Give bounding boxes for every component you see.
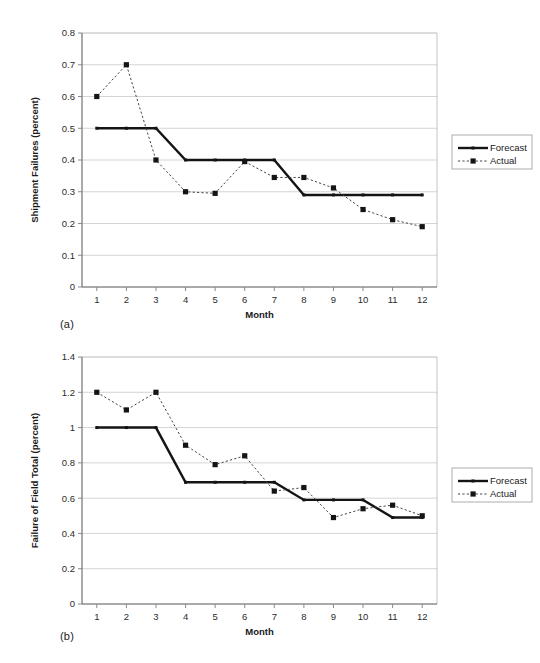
chart-legend: ForecastActual xyxy=(452,135,532,169)
x-tick-label: 7 xyxy=(272,294,277,305)
data-point-actual xyxy=(124,62,129,67)
y-tick-label: 0.6 xyxy=(62,91,75,102)
data-point-actual xyxy=(94,390,99,395)
y-tick-label: 0.7 xyxy=(62,59,75,70)
x-tick-label: 5 xyxy=(212,294,217,305)
x-tick-label: 3 xyxy=(153,294,158,305)
x-tick-label: 8 xyxy=(301,294,306,305)
legend-marker-actual xyxy=(471,491,476,496)
data-point-forecast xyxy=(362,193,365,196)
x-tick-label: 1 xyxy=(94,611,99,622)
data-point-forecast xyxy=(243,481,246,484)
panel-caption-a: (a) xyxy=(60,318,74,330)
data-point-forecast xyxy=(125,127,128,130)
data-point-actual xyxy=(153,157,158,162)
chart-b-failure-of-field-total: 00.20.40.60.811.21.4123456789101112Month… xyxy=(0,330,540,663)
x-tick-label: 4 xyxy=(183,294,188,305)
data-point-forecast xyxy=(214,481,217,484)
data-point-forecast xyxy=(391,193,394,196)
data-point-forecast xyxy=(273,159,276,162)
x-tick-label: 1 xyxy=(94,294,99,305)
x-tick-label: 4 xyxy=(183,611,188,622)
panel-caption-b: (b) xyxy=(60,630,74,642)
y-tick-label: 0.1 xyxy=(62,250,75,261)
data-point-actual xyxy=(390,217,395,222)
y-tick-label: 0.2 xyxy=(62,563,75,574)
legend-marker-forecast xyxy=(472,480,475,483)
x-tick-label: 2 xyxy=(124,611,129,622)
data-point-actual xyxy=(242,453,247,458)
data-point-actual xyxy=(360,207,365,212)
data-point-actual xyxy=(272,175,277,180)
x-tick-label: 9 xyxy=(331,294,336,305)
legend-label-forecast: Forecast xyxy=(490,475,527,486)
data-point-actual xyxy=(360,506,365,511)
data-point-forecast xyxy=(302,193,305,196)
x-tick-label: 6 xyxy=(242,611,247,622)
series-line-actual xyxy=(97,392,422,517)
x-tick-label: 5 xyxy=(212,611,217,622)
y-tick-label: 0.8 xyxy=(62,457,75,468)
y-tick-label: 0 xyxy=(70,281,75,292)
x-tick-label: 12 xyxy=(417,294,428,305)
chart-legend: ForecastActual xyxy=(452,468,532,502)
data-point-actual xyxy=(153,390,158,395)
x-tick-label: 9 xyxy=(331,611,336,622)
data-point-forecast xyxy=(302,498,305,501)
x-tick-label: 2 xyxy=(124,294,129,305)
y-axis-title: Shipment Failures (percent) xyxy=(29,97,40,223)
y-tick-label: 0.3 xyxy=(62,186,75,197)
x-tick-label: 12 xyxy=(417,611,428,622)
data-point-forecast xyxy=(184,481,187,484)
data-point-actual xyxy=(213,462,218,467)
data-point-actual xyxy=(420,513,425,518)
legend-marker-forecast xyxy=(472,147,475,150)
data-point-actual xyxy=(301,175,306,180)
x-tick-label: 10 xyxy=(358,611,369,622)
data-point-forecast xyxy=(362,498,365,501)
series-line-actual xyxy=(97,65,422,227)
x-tick-label: 3 xyxy=(153,611,158,622)
y-tick-label: 0.6 xyxy=(62,493,75,504)
data-point-forecast xyxy=(125,426,128,429)
data-point-forecast xyxy=(184,159,187,162)
x-axis-title: Month xyxy=(245,309,274,320)
data-point-forecast xyxy=(421,193,424,196)
data-point-forecast xyxy=(214,159,217,162)
chart-a-shipment-failures: 00.10.20.30.40.50.60.70.8123456789101112… xyxy=(0,0,540,340)
x-axis-title: Month xyxy=(245,626,274,637)
data-point-forecast xyxy=(391,516,394,519)
y-tick-label: 0.5 xyxy=(62,123,75,134)
data-point-forecast xyxy=(332,193,335,196)
y-tick-label: 1 xyxy=(70,422,75,433)
data-point-forecast xyxy=(95,127,98,130)
legend-label-actual: Actual xyxy=(490,155,516,166)
legend-label-forecast: Forecast xyxy=(490,142,527,153)
legend-marker-actual xyxy=(471,158,476,163)
x-tick-label: 11 xyxy=(388,294,398,305)
data-point-actual xyxy=(183,189,188,194)
data-point-forecast xyxy=(154,426,157,429)
data-point-actual xyxy=(272,488,277,493)
data-point-actual xyxy=(94,94,99,99)
data-point-actual xyxy=(213,191,218,196)
y-axis-title: Failure of Field Total (percent) xyxy=(29,413,40,548)
y-tick-label: 0 xyxy=(70,598,75,609)
x-tick-label: 10 xyxy=(358,294,369,305)
data-point-actual xyxy=(301,485,306,490)
x-tick-label: 11 xyxy=(388,611,398,622)
figure-panel-b: 00.20.40.60.811.21.4123456789101112Month… xyxy=(0,330,540,663)
y-tick-label: 1.4 xyxy=(62,351,75,362)
y-tick-label: 0.4 xyxy=(62,528,75,539)
data-point-forecast xyxy=(154,127,157,130)
x-tick-label: 8 xyxy=(301,611,306,622)
data-point-forecast xyxy=(332,498,335,501)
data-point-forecast xyxy=(273,481,276,484)
y-tick-label: 0.8 xyxy=(62,27,75,38)
legend-label-actual: Actual xyxy=(490,488,516,499)
data-point-actual xyxy=(183,443,188,448)
figure-panel-a: 00.10.20.30.40.50.60.70.8123456789101112… xyxy=(0,0,540,340)
data-point-actual xyxy=(124,407,129,412)
y-tick-label: 0.2 xyxy=(62,218,75,229)
data-point-forecast xyxy=(95,426,98,429)
